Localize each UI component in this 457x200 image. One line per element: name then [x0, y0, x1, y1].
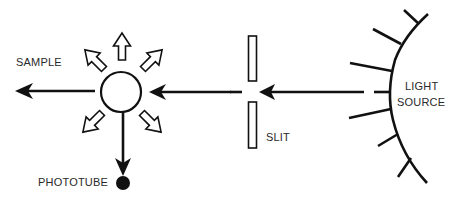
light-ray-3 — [350, 63, 392, 71]
emission-arrow-up-icon — [114, 33, 131, 60]
light-ray-5 — [378, 134, 398, 146]
beam-arrow-source-to-slit — [259, 84, 364, 100]
light-source-label-line2: SOURCE — [397, 96, 445, 108]
emission-arrow-up-right-icon — [137, 44, 168, 75]
slit — [230, 36, 257, 148]
light-source-label-line1: LIGHT — [405, 80, 438, 92]
sample-cuvette — [101, 72, 141, 112]
phototube-dot — [116, 176, 130, 190]
emission-arrow-down-left-icon — [77, 107, 108, 138]
beam-arrow-slit-to-sample — [149, 84, 231, 100]
fluorescence-diagram: LIGHT SOURCE SLIT SAMPLE PHOTOTUBE — [0, 0, 457, 200]
slit-upper-bar — [249, 36, 257, 81]
light-ray-4 — [349, 109, 391, 118]
phototube-label: PHOTOTUBE — [38, 176, 108, 188]
sample-label: SAMPLE — [16, 56, 62, 68]
light-ray-1 — [404, 10, 419, 24]
emission-arrow-down-right-icon — [136, 107, 167, 138]
slit-lower-bar — [249, 102, 257, 148]
transmitted-beam-arrow — [15, 83, 95, 99]
light-ray-2 — [373, 29, 401, 44]
emission-arrow-up-left-icon — [79, 44, 110, 75]
phototube-beam-arrow — [115, 112, 131, 176]
light-ray-6 — [398, 158, 411, 177]
slit-label: SLIT — [266, 131, 290, 143]
